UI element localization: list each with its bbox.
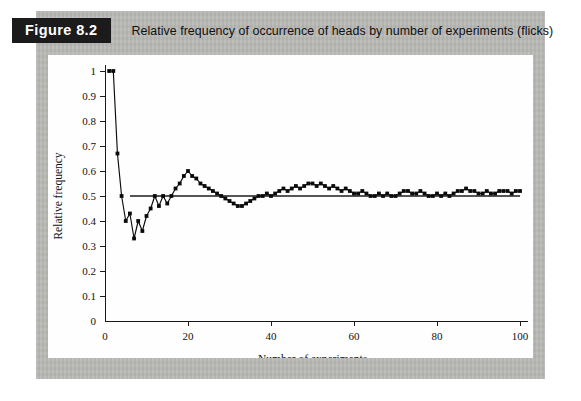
data-point <box>448 194 452 198</box>
data-point <box>145 214 149 218</box>
data-point <box>435 192 439 196</box>
data-point <box>481 192 485 196</box>
data-point <box>228 199 232 203</box>
x-tick-label: 0 <box>102 330 108 342</box>
y-tick-label: 0.3 <box>82 240 96 252</box>
data-point <box>211 189 215 193</box>
data-point <box>398 192 402 196</box>
data-point <box>323 184 327 188</box>
data-point <box>327 187 331 191</box>
data-point <box>153 194 157 198</box>
data-point <box>178 182 182 186</box>
data-point <box>290 187 294 191</box>
data-point <box>107 69 111 73</box>
figure-caption-text: Relative frequency of occurrence of head… <box>132 24 554 38</box>
data-point <box>223 197 227 201</box>
data-point <box>493 192 497 196</box>
data-point <box>244 202 248 206</box>
y-tick-label: 0.1 <box>82 290 96 302</box>
data-point <box>443 192 447 196</box>
data-point <box>294 184 298 188</box>
data-point <box>240 204 244 208</box>
data-point <box>352 192 356 196</box>
data-point <box>116 152 120 156</box>
data-point <box>336 187 340 191</box>
data-point <box>311 182 315 186</box>
data-point <box>269 194 273 198</box>
data-point <box>502 189 506 193</box>
y-tick-label: 0.2 <box>82 265 96 277</box>
y-tick-label: 0.8 <box>82 115 96 127</box>
data-point <box>124 219 128 223</box>
data-point <box>157 204 161 208</box>
data-point <box>344 187 348 191</box>
figure-root: Figure 8.2 Relative frequency of occurre… <box>0 0 581 401</box>
y-tick-label: 0.7 <box>82 140 96 152</box>
data-point <box>331 184 335 188</box>
data-point <box>286 189 290 193</box>
data-point <box>136 219 140 223</box>
series-line <box>109 71 520 239</box>
y-axis-ticks: 00.10.20.30.40.50.60.70.80.91 <box>82 65 105 327</box>
data-point <box>406 189 410 193</box>
data-point <box>248 199 252 203</box>
x-tick-label: 40 <box>266 330 278 342</box>
data-point <box>468 189 472 193</box>
data-point <box>419 189 423 193</box>
series-markers <box>107 69 522 240</box>
data-point <box>298 187 302 191</box>
data-point <box>497 189 501 193</box>
data-point <box>472 189 476 193</box>
data-point <box>236 204 240 208</box>
data-point <box>140 229 144 233</box>
y-tick-label: 0 <box>91 315 97 327</box>
data-point <box>306 182 310 186</box>
data-point <box>265 192 269 196</box>
data-point <box>373 194 377 198</box>
data-point <box>485 189 489 193</box>
chart-canvas: 00.10.20.30.40.50.60.70.80.91 0204060801… <box>48 55 533 358</box>
data-point <box>253 197 257 201</box>
data-point <box>261 194 265 198</box>
data-point <box>381 194 385 198</box>
data-point <box>190 174 194 178</box>
data-point <box>394 194 398 198</box>
plot-panel: 00.10.20.30.40.50.60.70.80.91 0204060801… <box>48 55 533 358</box>
x-axis-title: Number of experiments <box>258 353 368 358</box>
data-point <box>423 192 427 196</box>
data-point <box>319 182 323 186</box>
data-point <box>186 169 190 173</box>
data-point <box>510 192 514 196</box>
data-point <box>460 189 464 193</box>
data-point <box>414 192 418 196</box>
data-point <box>165 202 169 206</box>
data-point <box>489 192 493 196</box>
y-tick-label: 0.5 <box>82 190 96 202</box>
data-point <box>452 192 456 196</box>
data-point <box>302 184 306 188</box>
x-axis-ticks: 020406080100 <box>102 321 529 342</box>
data-point <box>174 187 178 191</box>
data-point <box>377 192 381 196</box>
data-point <box>161 194 165 198</box>
data-point <box>282 187 286 191</box>
data-point <box>477 192 481 196</box>
data-point <box>427 194 431 198</box>
data-point <box>277 189 281 193</box>
y-axis-title: Relative frequency <box>52 152 65 239</box>
data-point <box>132 237 136 241</box>
data-point <box>514 189 518 193</box>
data-point <box>456 189 460 193</box>
data-point <box>506 189 510 193</box>
data-point <box>340 189 344 193</box>
data-point <box>182 174 186 178</box>
data-point <box>257 194 261 198</box>
data-point <box>207 187 211 191</box>
data-point <box>203 184 207 188</box>
x-tick-label: 100 <box>512 330 529 342</box>
data-point <box>385 192 389 196</box>
data-point <box>439 194 443 198</box>
y-tick-label: 1 <box>91 65 97 77</box>
data-point <box>232 202 236 206</box>
y-tick-label: 0.9 <box>82 90 96 102</box>
